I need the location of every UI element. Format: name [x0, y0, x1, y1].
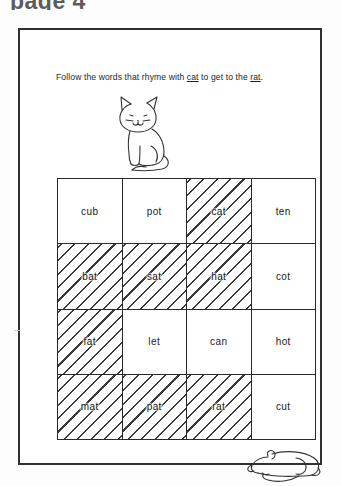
maze-cell-cut[interactable]: cut — [252, 375, 317, 440]
maze-cell-fat[interactable]: fat — [58, 310, 123, 375]
maze-cell-word: cat — [211, 206, 226, 217]
instruction-suffix: . — [261, 72, 264, 82]
maze-cell-word: can — [210, 336, 227, 347]
maze-cell-hot[interactable]: hot — [252, 310, 317, 375]
maze-cell-word: cot — [276, 271, 291, 282]
maze-cell-sat[interactable]: sat — [123, 244, 188, 309]
maze-cell-cot[interactable]: cot — [252, 244, 317, 309]
scanned-page: page 4 Follow the words that rhyme with … — [0, 0, 341, 486]
maze-cell-hat[interactable]: hat — [187, 244, 252, 309]
maze-cell-mat[interactable]: mat — [58, 375, 123, 440]
maze-cell-word: cub — [81, 206, 98, 217]
instruction-text: Follow the words that rhyme with cat to … — [56, 72, 334, 83]
instruction-middle: to get to the — [199, 72, 251, 82]
maze-cell-word: mat — [81, 401, 99, 412]
maze-cell-pot[interactable]: pot — [123, 179, 188, 244]
instruction-prefix: Follow the words that rhyme with — [56, 72, 187, 82]
maze-cell-word: pat — [147, 401, 162, 412]
maze-cell-bat[interactable]: bat — [58, 244, 123, 309]
maze-cell-cub[interactable]: cub — [58, 179, 123, 244]
maze-cell-word: bat — [82, 271, 97, 282]
instruction-goal-word: rat — [250, 72, 260, 82]
maze-cell-pat[interactable]: pat — [123, 375, 188, 440]
maze-cell-can[interactable]: can — [187, 310, 252, 375]
maze-cell-ten[interactable]: ten — [252, 179, 317, 244]
maze-cell-word: hat — [211, 271, 226, 282]
cat-drawing — [102, 86, 178, 174]
maze-cell-word: pot — [147, 206, 162, 217]
maze-cell-word: hot — [276, 336, 291, 347]
maze-cell-cat[interactable]: cat — [187, 179, 252, 244]
maze-cell-word: rat — [212, 401, 225, 412]
maze-cell-rat[interactable]: rat — [187, 375, 252, 440]
maze-cell-word: sat — [147, 271, 162, 282]
maze-cell-word: let — [148, 336, 160, 347]
worksheet-frame: Follow the words that rhyme with cat to … — [18, 28, 322, 465]
page-header-text: page 4 — [10, 0, 86, 10]
maze-cell-let[interactable]: let — [123, 310, 188, 375]
instruction-rhyme-key: cat — [187, 72, 199, 82]
maze-cell-word: fat — [84, 336, 96, 347]
scan-speck — [14, 330, 21, 331]
maze-grid: cubpotcattenbatsathatcotfatletcanhotmatp… — [57, 178, 316, 440]
maze-cell-word: cut — [276, 401, 291, 412]
rat-drawing — [242, 444, 332, 486]
maze-cell-word: ten — [276, 206, 291, 217]
